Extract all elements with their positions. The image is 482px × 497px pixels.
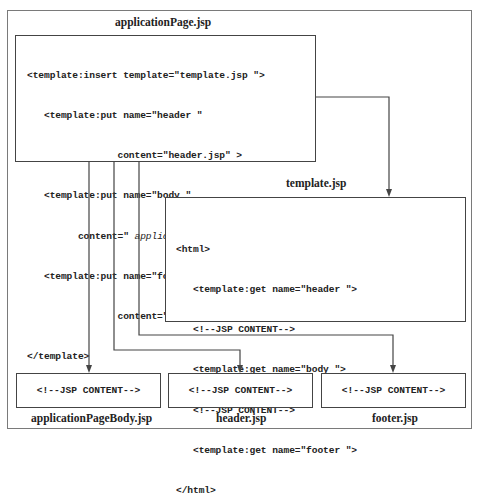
- arrow-to-template: [316, 97, 389, 190]
- code-line: <template:get name="footer ">: [176, 444, 357, 457]
- code-line: </html>: [176, 484, 357, 497]
- arrow-to-footer: [139, 162, 393, 366]
